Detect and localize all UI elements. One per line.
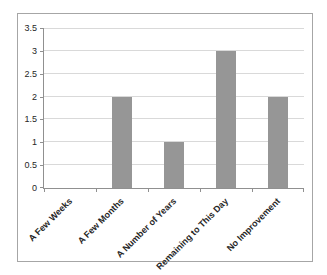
- x-axis-tick: [303, 188, 304, 192]
- y-axis-tick: [40, 142, 44, 143]
- bar: [268, 97, 288, 188]
- gridline: [44, 96, 304, 97]
- bar: [112, 97, 132, 188]
- y-tick-label: 3.5: [18, 23, 37, 33]
- x-axis-tick: [44, 188, 45, 192]
- x-axis-tick: [148, 188, 149, 192]
- bar-chart-screenshot: { "chart_data": { "type": "bar", "catego…: [0, 0, 327, 275]
- chart-frame: 3.5 3 2.5 2 1.5 1 0.5 0: [17, 13, 313, 262]
- plot-area: [43, 28, 304, 189]
- x-category-label: No Improvement: [225, 196, 282, 253]
- gridline: [44, 73, 304, 74]
- y-axis-tick: [40, 165, 44, 166]
- y-tick-label: 0.5: [18, 160, 37, 170]
- y-axis-tick: [40, 28, 44, 29]
- x-axis-tick: [252, 188, 253, 192]
- y-tick-label: 0: [18, 183, 37, 193]
- x-category-label: A Few Months: [76, 196, 126, 246]
- x-axis-tick: [200, 188, 201, 192]
- gridline: [44, 118, 304, 119]
- y-tick-label: 2.5: [18, 69, 37, 79]
- y-axis-tick: [40, 97, 44, 98]
- gridline: [44, 28, 304, 29]
- y-tick-label: 1: [18, 137, 37, 147]
- y-tick-label: 1.5: [18, 114, 37, 124]
- y-tick-label: 3: [18, 46, 37, 56]
- bar: [216, 51, 236, 188]
- y-axis-tick: [40, 51, 44, 52]
- y-tick-label: 2: [18, 92, 37, 102]
- x-category-label: A Few Weeks: [27, 196, 74, 243]
- gridline: [44, 50, 304, 51]
- y-axis-tick: [40, 74, 44, 75]
- x-axis-tick: [96, 188, 97, 192]
- y-axis-tick: [40, 119, 44, 120]
- bar: [164, 142, 184, 188]
